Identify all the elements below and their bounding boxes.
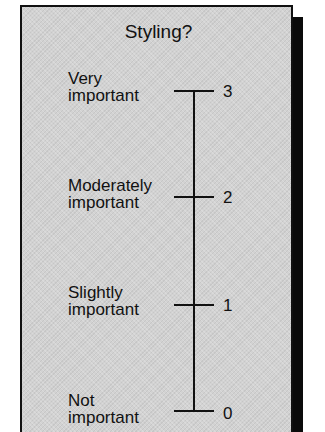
tick-value-0: 0	[223, 405, 232, 422]
level-label-moderately-important: Moderately important	[68, 177, 178, 211]
figure: Styling? Very important 3 Moderately imp…	[0, 0, 325, 432]
rating-scale-panel: Styling? Very important 3 Moderately imp…	[20, 5, 293, 432]
tick-mark-2	[174, 196, 214, 198]
tick-value-3: 3	[223, 83, 232, 100]
level-label-very-important: Very important	[68, 70, 178, 104]
level-label-not-important: Not important	[68, 392, 178, 426]
tick-mark-0	[174, 410, 214, 412]
level-label-slightly-important: Slightly important	[68, 284, 178, 318]
scale-axis-line	[193, 90, 195, 412]
tick-mark-1	[174, 304, 214, 306]
drop-shadow	[292, 17, 303, 432]
tick-mark-3	[174, 90, 214, 92]
tick-value-1: 1	[223, 297, 232, 314]
scale-title: Styling?	[26, 21, 291, 43]
tick-value-2: 2	[223, 189, 232, 206]
